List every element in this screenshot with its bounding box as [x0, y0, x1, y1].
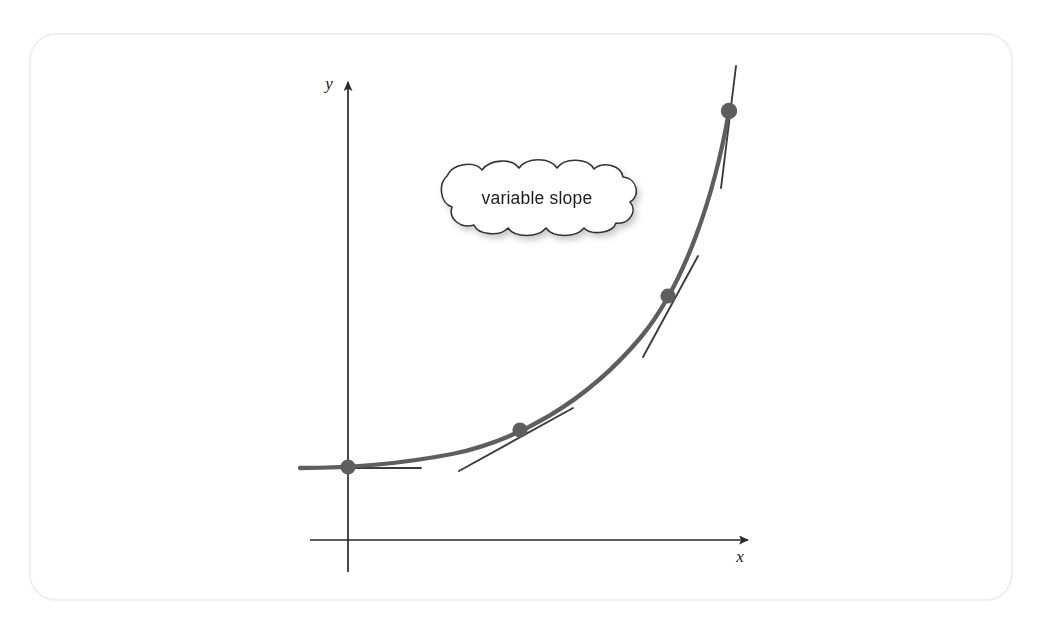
point-1: [340, 459, 355, 474]
cloud-callout: variable slope: [441, 160, 636, 236]
x-axis-label: x: [735, 547, 744, 566]
point-3: [660, 288, 675, 303]
variable-slope-diagram: x y variable slope: [0, 0, 1044, 630]
cloud-callout-label: variable slope: [482, 188, 593, 208]
point-4: [721, 103, 737, 119]
rounded-card-border: [30, 34, 1012, 600]
point-2: [512, 422, 527, 437]
figure-root: x y variable slope: [0, 0, 1044, 630]
y-axis-label: y: [323, 74, 333, 93]
